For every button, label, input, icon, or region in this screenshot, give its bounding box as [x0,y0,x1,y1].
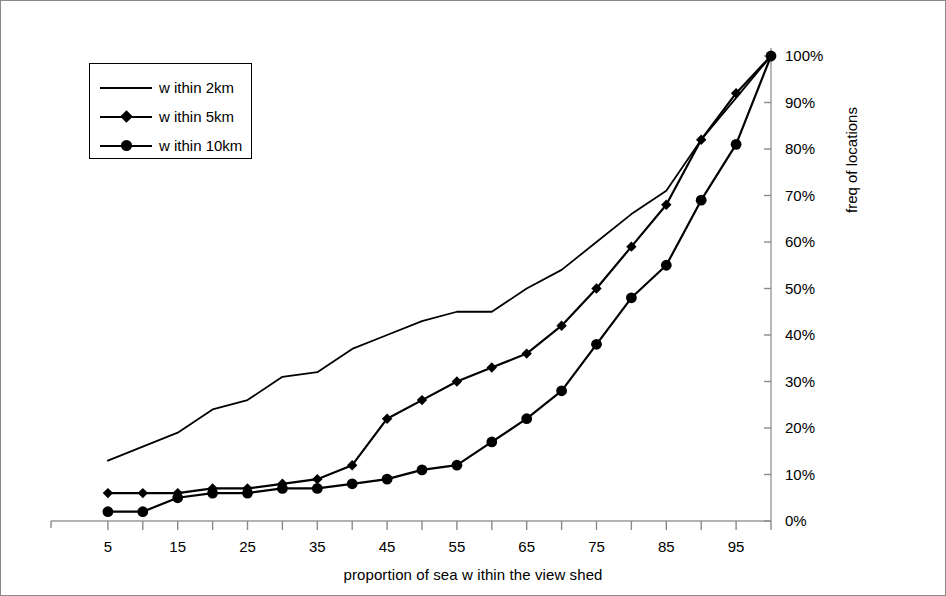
x-axis-tick-label: 65 [507,539,547,554]
data-point-marker-circle [766,51,777,62]
x-axis-tick-label: 85 [646,539,686,554]
x-axis-title: proportion of sea w ithin the view shed [1,566,945,583]
data-point-marker-diamond [138,488,148,498]
x-axis-tick-label: 5 [88,539,128,554]
data-point-marker-diamond [417,395,427,405]
data-point-marker-diamond [312,474,322,484]
data-point-marker-circle [626,292,637,303]
line-icon [100,81,152,95]
data-point-marker-circle [731,139,742,150]
y-axis-tick-label: 40% [785,327,815,342]
legend-label-within-5km: w ithin 5km [159,109,234,124]
data-point-marker-diamond [487,362,497,372]
legend-item-within-5km: w ithin 5km [90,102,251,131]
y-axis-tick-label: 90% [785,95,815,110]
y-axis-tick-label: 70% [785,188,815,203]
data-point-marker-diamond [452,376,462,386]
x-axis-tick-label: 45 [367,539,407,554]
chart-figure: 0%10%20%30%40%50%60%70%80%90%100% 515253… [0,0,946,596]
data-point-marker-circle [347,478,358,489]
data-point-marker-circle [207,488,218,499]
data-point-marker-circle [103,506,114,517]
x-axis-tick-label: 35 [297,539,337,554]
y-axis-title: freq of locations [843,33,860,213]
data-point-marker-circle [242,488,253,499]
x-axis-tick-label: 55 [437,539,477,554]
y-axis-tick-label: 0% [785,513,807,528]
x-axis-tick-label: 95 [716,539,756,554]
y-axis-tick-label: 20% [785,420,815,435]
data-point-marker-diamond [103,488,113,498]
x-axis-tick-label: 75 [577,539,617,554]
circle-marker-icon [100,139,152,153]
legend-label-within-2km: w ithin 2km [159,80,234,95]
y-axis-tick-label: 100% [785,48,823,63]
legend-item-within-2km: w ithin 2km [90,73,251,102]
data-point-marker-circle [696,195,707,206]
data-point-marker-circle [556,385,567,396]
data-point-marker-circle [312,483,323,494]
x-axis-tick-label: 15 [158,539,198,554]
data-point-marker-circle [591,339,602,350]
data-point-marker-circle [452,460,463,471]
legend-label-within-10km: w ithin 10km [159,138,242,153]
data-point-marker-circle [417,464,428,475]
data-point-marker-circle [382,474,393,485]
y-axis-tick-label: 30% [785,374,815,389]
y-axis-tick-label: 10% [785,467,815,482]
data-point-marker-circle [172,492,183,503]
x-axis-tick-label: 25 [228,539,268,554]
data-point-marker-circle [277,483,288,494]
y-axis-tick-label: 50% [785,281,815,296]
diamond-marker-icon [100,110,152,124]
data-point-marker-circle [661,260,672,271]
y-axis-tick-label: 80% [785,141,815,156]
data-point-marker-circle [137,506,148,517]
y-axis-tick-label: 60% [785,234,815,249]
data-point-marker-circle [486,437,497,448]
chart-legend: w ithin 2km w ithin 5km w ithin 10km [89,63,252,159]
legend-item-within-10km: w ithin 10km [90,131,251,160]
data-point-marker-circle [521,413,532,424]
